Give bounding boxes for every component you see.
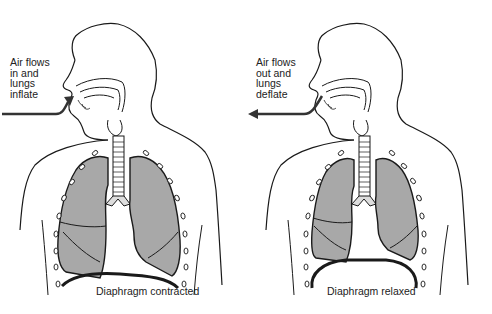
lung-left (312, 159, 354, 263)
lung-left (58, 157, 108, 279)
lung-right (375, 158, 418, 260)
bronchi (106, 196, 130, 206)
inner-torso-right (440, 225, 448, 295)
callout-inhalation: Air flows in and lungs inflate (10, 57, 70, 99)
torso-illustration-inhalation (0, 0, 246, 314)
bronchi (352, 196, 376, 206)
callout-line: Air flows (256, 57, 316, 68)
caption-diaphragm-relaxed: Diaphragm relaxed (327, 285, 416, 297)
callout-line: inflate (10, 89, 70, 100)
inner-torso-left (288, 220, 294, 295)
panel-inhalation: Air flows in and lungs inflate Diaphragm… (0, 0, 246, 314)
callout-line: lungs (10, 78, 70, 89)
callout-exhalation: Air flows out and lungs deflate (256, 57, 316, 99)
inner-torso-left (42, 220, 48, 295)
arrowhead-out (248, 109, 258, 119)
larynx (107, 120, 122, 136)
callout-line: Air flows (10, 57, 70, 68)
panel-exhalation: Air flows out and lungs deflate Diaphrag… (246, 0, 492, 314)
arrow-in-icon (2, 102, 68, 114)
callout-line: lungs (256, 78, 316, 89)
diaphragm-relaxed (312, 260, 416, 288)
lung-right (130, 156, 181, 276)
callout-line: deflate (256, 89, 316, 100)
caption-diaphragm-contracted: Diaphragm contracted (96, 285, 199, 297)
larynx (353, 120, 368, 136)
torso-illustration-exhalation (246, 0, 492, 314)
